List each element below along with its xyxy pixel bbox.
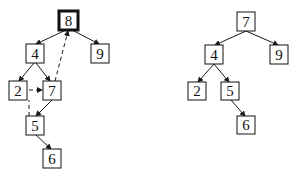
edge-7-5 [36,100,52,116]
edge-4-7 [36,63,50,81]
node-label: 5 [226,83,234,99]
node-label: 4 [210,47,218,63]
node-label: 6 [48,151,56,167]
node-5: 5 [221,82,239,100]
node-label: 2 [14,83,22,99]
node-label: 8 [65,13,73,29]
edge-5-6 [36,135,51,149]
node-label: 2 [193,83,201,99]
node-2: 2 [9,81,27,100]
node-label: 7 [48,83,56,99]
node-5: 5 [26,116,44,135]
node-label: 7 [242,14,250,30]
node-label: 6 [242,117,250,133]
node-4: 4 [205,45,223,64]
node-label: 9 [275,47,283,63]
node-9: 9 [91,44,109,63]
node-7: 7 [43,81,61,100]
dashed-arrow-7-to-8 [55,31,68,81]
node-4: 4 [26,44,44,63]
right-tree-edges [198,31,278,116]
node-label: 9 [96,46,104,62]
edge-7-4 [215,31,246,45]
edge-4-2 [198,64,214,82]
node-6: 6 [43,149,61,168]
node-7-root: 7 [237,12,255,31]
node-9: 9 [270,45,288,64]
node-2: 2 [188,82,206,100]
edge-4-5 [214,64,229,82]
tree-diagram: 8 4 9 2 7 5 6 [0,0,293,176]
edge-7-9 [246,31,278,45]
right-tree-nodes: 7 4 9 2 5 6 [188,12,288,134]
node-6: 6 [237,116,255,134]
edge-4-2 [19,63,34,81]
node-label: 5 [31,118,39,134]
edge-8-9 [72,30,99,44]
edge-5-6 [231,100,245,116]
edge-8-4 [36,30,66,44]
node-8-root-highlighted: 8 [59,11,78,30]
node-label: 4 [31,46,39,62]
left-tree-nodes: 8 4 9 2 7 5 6 [9,11,109,168]
